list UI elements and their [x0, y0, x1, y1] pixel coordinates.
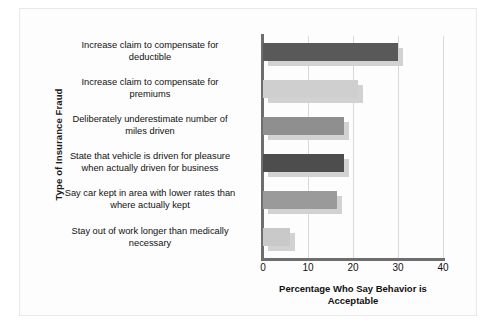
bar	[263, 43, 398, 61]
bar-body	[263, 191, 337, 209]
gridline	[353, 36, 354, 258]
x-tick-label: 30	[383, 262, 413, 273]
bar	[263, 228, 290, 246]
x-axis-title: Percentage Who Say Behavior is Acceptabl…	[253, 283, 453, 307]
category-label-line2: where actually kept	[110, 200, 190, 210]
x-tick-label: 0	[248, 262, 278, 273]
bar	[263, 117, 344, 135]
bar	[263, 80, 358, 98]
category-label: Say car kept in area with lower rates th…	[46, 188, 254, 211]
category-label-line2: necessary	[129, 238, 171, 248]
category-label-column: Increase claim to compensate for deducti…	[46, 36, 258, 258]
category-label-line1: State that vehicle is driven for pleasur…	[70, 151, 230, 161]
category-label-line2: premiums	[130, 89, 171, 99]
gridline	[443, 36, 444, 258]
bar-body	[263, 80, 358, 98]
bar	[263, 191, 337, 209]
insurance-fraud-bar-chart: Type of Insurance Fraud Increase claim t…	[0, 0, 496, 331]
x-tick-label: 20	[338, 262, 368, 273]
category-label-line1: Say car kept in area with lower rates th…	[65, 188, 236, 198]
bar-body	[263, 228, 290, 246]
plot-area	[263, 36, 443, 258]
x-axis-line	[261, 258, 445, 261]
category-label-line2: miles driven	[125, 126, 175, 136]
category-label-line1: Increase claim to compensate for	[82, 40, 219, 50]
category-label: Stay out of work longer than medically n…	[46, 226, 254, 249]
category-label-line1: Increase claim to compensate for	[82, 77, 219, 87]
x-axis-title-line1: Percentage Who Say Behavior is	[279, 283, 427, 294]
category-label-line1: Stay out of work longer than medically	[71, 226, 228, 236]
bar-body	[263, 43, 398, 61]
category-label-line2: deductible	[129, 52, 171, 62]
x-axis-title-line2: Acceptable	[328, 295, 379, 306]
x-tick-label: 10	[293, 262, 323, 273]
bar-body	[263, 154, 344, 172]
gridline	[308, 36, 309, 258]
category-label: Increase claim to compensate for premium…	[46, 77, 254, 100]
gridline	[398, 36, 399, 258]
category-label: Increase claim to compensate for deducti…	[46, 40, 254, 63]
category-label-line2: when actually driven for business	[82, 163, 219, 173]
category-label-line1: Deliberately underestimate number of	[72, 114, 227, 124]
x-tick-label: 40	[428, 262, 458, 273]
bar-body	[263, 117, 344, 135]
category-label: Deliberately underestimate number of mil…	[46, 114, 254, 137]
bar	[263, 154, 344, 172]
category-label: State that vehicle is driven for pleasur…	[46, 151, 254, 174]
